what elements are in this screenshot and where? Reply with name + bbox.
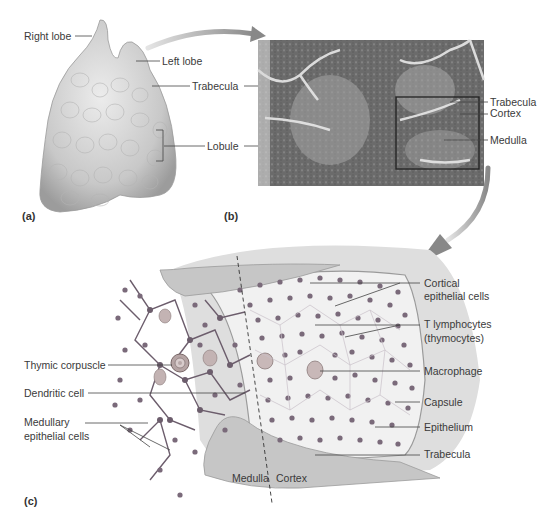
label-medulla-c: Medulla: [232, 472, 269, 485]
label-right-lobe: Right lobe: [24, 30, 71, 43]
label-macrophage: Macrophage: [424, 365, 482, 378]
lobule-diagram: [85, 246, 480, 504]
label-medullary-epithelial-2: epithelial cells: [24, 430, 89, 443]
label-capsule: Capsule: [424, 396, 463, 409]
panel-label-c: (c): [24, 495, 37, 507]
label-thymic-corpuscle: Thymic corpuscle: [24, 359, 106, 372]
label-cortex-b: Cortex: [490, 107, 521, 120]
thymus-illustration: [0, 0, 552, 523]
label-trabecula-a: Trabecula: [192, 80, 238, 93]
label-cortical-epithelial-1: Cortical: [424, 277, 460, 290]
label-thymocytes: (thymocytes): [424, 332, 484, 345]
label-epithelium: Epithelium: [424, 421, 473, 434]
label-medulla-b: Medulla: [490, 134, 527, 147]
label-t-lymphocytes: T lymphocytes: [424, 318, 492, 331]
label-medullary-epithelial-1: Medullary: [24, 416, 70, 429]
label-cortex-c: Cortex: [276, 472, 307, 485]
label-trabecula-c: Trabecula: [424, 448, 470, 461]
label-dendritic-cell: Dendritic cell: [24, 387, 84, 400]
panel-label-b: (b): [224, 210, 238, 222]
label-lobule: Lobule: [207, 140, 239, 153]
label-left-lobe: Left lobe: [162, 55, 202, 68]
label-cortical-epithelial-2: epithelial cells: [424, 290, 489, 303]
panel-label-a: (a): [22, 210, 35, 222]
micrograph: [258, 40, 488, 264]
